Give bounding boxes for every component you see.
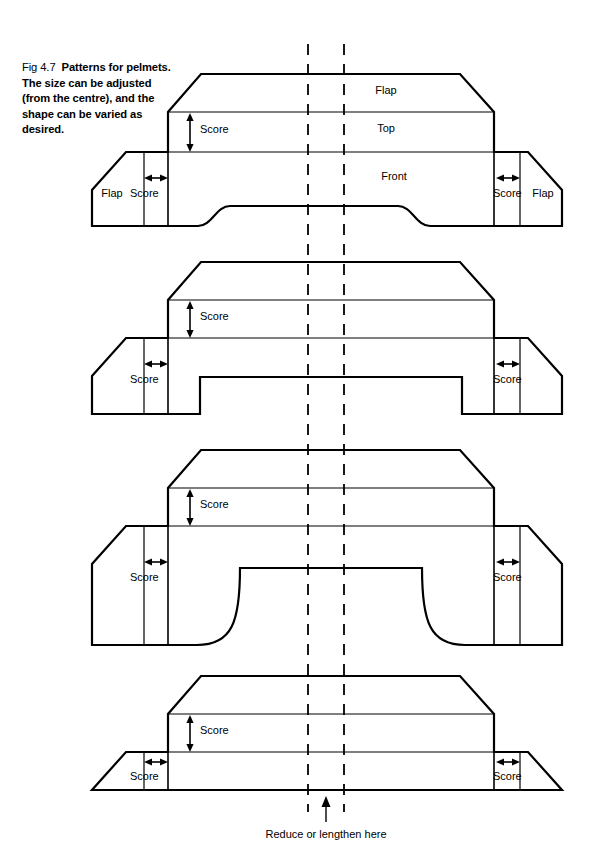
pattern-1-label-flap-right: Flap xyxy=(532,187,553,199)
figure-page: Fig 4.7 Patterns for pelmets. The size c… xyxy=(0,0,601,865)
pattern-1-label-flap: Flap xyxy=(375,84,396,96)
reduce-lengthen-annotation: Reduce or lengthen here xyxy=(265,796,386,840)
pattern-4-group: Score Score Score xyxy=(92,676,562,790)
pattern-4-score-label-left: Score xyxy=(130,770,159,782)
pattern-2-score-label-right: Score xyxy=(493,373,522,385)
pattern-1-score-label-right: Score xyxy=(493,187,522,199)
bottom-arrow-head xyxy=(322,796,331,807)
pattern-1-group: Score Score Score Flap Top Front Flap Fl… xyxy=(92,74,562,226)
pattern-4-score-label-vertical: Score xyxy=(200,724,229,736)
pattern-3-score-label-right: Score xyxy=(493,571,522,583)
pattern-1-score-label-left: Score xyxy=(130,187,159,199)
pattern-1-label-flap-left: Flap xyxy=(101,187,122,199)
pattern-3-score-label-left: Score xyxy=(130,571,159,583)
pattern-1-label-front: Front xyxy=(381,170,407,182)
pattern-3-outline xyxy=(92,450,562,645)
pattern-1-score-label-vertical: Score xyxy=(200,123,229,135)
pattern-4-outline xyxy=(92,676,562,790)
pattern-2-group: Score Score Score xyxy=(92,262,562,414)
pattern-4-score-label-right: Score xyxy=(493,770,522,782)
pelmet-patterns-diagram: Score Score Score Flap Top Front Flap Fl… xyxy=(0,0,601,865)
pattern-2-score-label-left: Score xyxy=(130,373,159,385)
pattern-3-group: Score Score Score xyxy=(92,450,562,645)
pattern-3-score-label-vertical: Score xyxy=(200,498,229,510)
pattern-2-score-label-vertical: Score xyxy=(200,310,229,322)
bottom-note-label: Reduce or lengthen here xyxy=(265,828,386,840)
pattern-1-outline xyxy=(92,74,562,226)
pattern-1-label-top: Top xyxy=(377,122,395,134)
